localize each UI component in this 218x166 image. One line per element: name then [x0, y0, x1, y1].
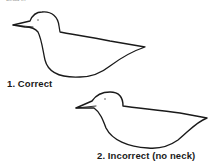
bird-incorrect-eye — [104, 98, 106, 100]
caption-incorrect: 2. Incorrect (no neck) — [97, 150, 195, 161]
bird-correct-illustration — [13, 12, 145, 77]
bird-correct-eye — [37, 19, 39, 21]
caption-correct: 1. Correct — [7, 78, 52, 89]
bird-incorrect-illustration — [76, 92, 207, 148]
